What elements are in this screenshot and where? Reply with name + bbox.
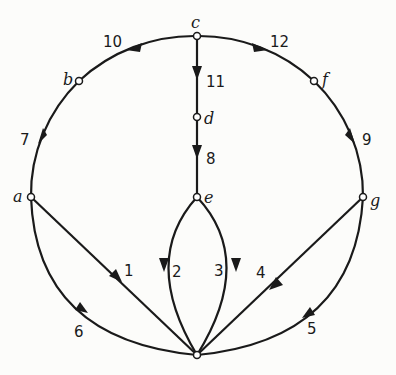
edge-label-10: 10 [103,33,122,51]
arrow-1-icon [109,269,122,282]
node-b [76,78,83,85]
edge-9 [314,81,363,197]
arrow-3-icon [231,258,241,272]
graph-canvas: c b f d a e g 10 12 11 8 7 9 1 2 3 4 6 5 [0,0,396,375]
arrow-11-icon [192,66,202,80]
arrow-8-icon [192,145,202,159]
edge-label-12: 12 [270,33,289,51]
edge-label-4: 4 [256,264,266,282]
node-f [311,78,318,85]
arrow-5-icon [302,307,315,318]
edge-label-3: 3 [214,262,224,280]
edge-label-2: 2 [172,263,182,281]
edge-label-6: 6 [74,323,84,341]
edge-7 [31,81,79,197]
edge-label-8: 8 [206,150,216,168]
node-label-f: f [321,70,331,89]
node-label-e: e [204,188,213,207]
node-g [360,194,367,201]
node-a [28,194,35,201]
edge-label-5: 5 [307,320,317,338]
edge-label-7: 7 [20,131,30,149]
edge-10 [79,36,197,81]
node-h [194,352,201,359]
node-c [194,33,201,40]
edge-label-11: 11 [206,73,225,91]
node-label-b: b [63,70,73,89]
edge-label-9: 9 [362,131,372,149]
node-label-a: a [13,187,23,206]
arrow-10-icon [126,43,142,52]
node-label-c: c [191,13,200,32]
node-e [194,194,201,201]
node-d [194,114,201,121]
edge-label-1: 1 [124,262,134,280]
arrow-9-icon [345,128,355,144]
graph-diagram: c b f d a e g 10 12 11 8 7 9 1 2 3 4 6 5 [0,0,396,375]
node-label-g: g [370,191,380,210]
node-label-d: d [204,109,214,128]
